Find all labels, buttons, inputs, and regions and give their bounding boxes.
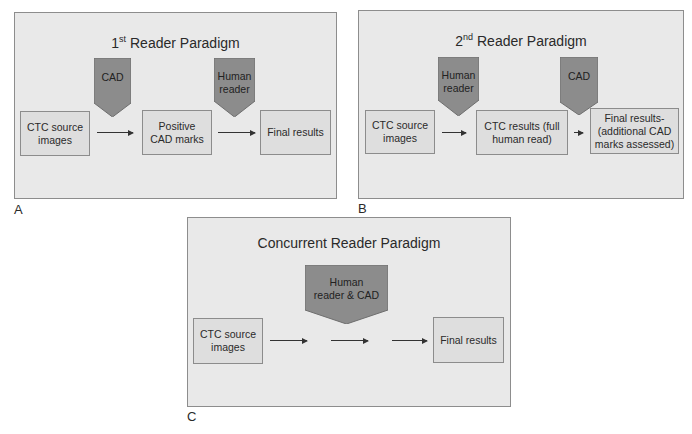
- flow-arrow: [574, 132, 583, 133]
- human-reader-pentagon: Human reader: [214, 58, 255, 117]
- human-reader-pentagon: Human reader: [438, 57, 479, 116]
- panel-label-c: C: [187, 409, 196, 424]
- final-results-box: Final results: [260, 110, 331, 155]
- human-reader-cad-pentagon: Human reader & CAD: [305, 265, 388, 324]
- positive-cad-marks-box: Positive CAD marks: [142, 110, 212, 155]
- cad-pentagon: CAD: [94, 58, 131, 117]
- panel-title: Concurrent Reader Paradigm: [188, 235, 510, 251]
- final-results-box: Final results- (additional CAD marks ass…: [590, 108, 679, 154]
- flow-arrow: [218, 132, 255, 133]
- flow-arrow: [442, 132, 466, 133]
- ctc-source-images-box: CTC source images: [365, 110, 435, 154]
- final-results-box: Final results: [433, 317, 504, 363]
- panel-title: 1st Reader Paradigm: [15, 34, 336, 51]
- panel-second-reader: 2nd Reader Paradigm: [358, 10, 684, 199]
- panel-label-b: B: [358, 201, 367, 216]
- ctc-source-images-box: CTC source images: [20, 111, 90, 156]
- panel-label-a: A: [14, 202, 23, 217]
- panel-first-reader: 1st Reader Paradigm: [14, 12, 337, 199]
- flow-arrow: [392, 340, 427, 341]
- flow-arrow: [270, 340, 307, 341]
- ctc-source-images-box: CTC source images: [193, 318, 263, 364]
- flow-arrow: [97, 132, 133, 133]
- panel-title: 2nd Reader Paradigm: [359, 32, 683, 49]
- flow-arrow: [331, 340, 368, 341]
- cad-pentagon: CAD: [560, 57, 598, 115]
- ctc-results-box: CTC results (full human read): [476, 110, 568, 155]
